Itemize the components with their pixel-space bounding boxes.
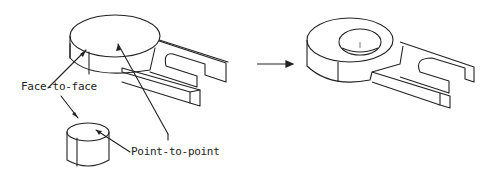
point-to-point-label: Point-to-point (131, 145, 220, 158)
face-to-face-label: Face-to-face (21, 80, 97, 93)
transform-arrow (257, 61, 293, 67)
cylinder-peg-part (67, 123, 109, 166)
point-to-point-arrow-bottom (96, 130, 130, 152)
point-to-point-arrow-top (118, 44, 168, 134)
assembled-part (307, 18, 474, 108)
